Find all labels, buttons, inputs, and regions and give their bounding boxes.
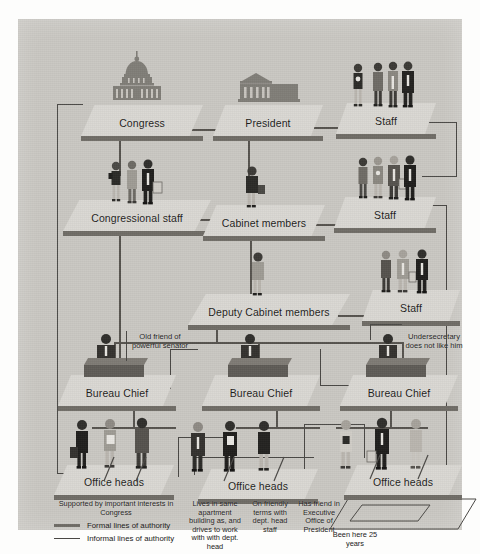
diagram-canvas: Congress <box>0 0 480 554</box>
annotation-old-friend: Old friend of powerful senator <box>131 333 189 351</box>
legend-label-formal: Formal lines of authority <box>87 521 170 530</box>
line-staff-right-mid <box>422 176 457 177</box>
platform-edge <box>340 406 458 411</box>
annotation-undersecretary: Undersecretary does not like him <box>404 333 464 351</box>
platform-edge <box>58 406 176 411</box>
people-group-icon <box>106 160 166 210</box>
line-bcc-informal-v <box>320 349 321 385</box>
node-label-staff-mid: Staff <box>334 209 436 221</box>
people-group-icon <box>348 62 420 114</box>
legend-swatch-informal <box>54 538 80 539</box>
line-congress-left-top <box>57 104 83 105</box>
informal-tick-marks <box>88 451 198 483</box>
informal-tick-marks <box>214 451 324 483</box>
platform-edge <box>81 136 203 141</box>
line-staff-right-spine <box>456 122 457 177</box>
node-label-congress: Congress <box>81 117 203 129</box>
node-label-cabinet-members: Cabinet members <box>203 217 325 229</box>
node-bureau-chief-right[interactable]: Bureau Chief <box>340 375 458 406</box>
legend-swatch-formal <box>54 524 80 527</box>
illustration-plate: Congress <box>18 19 462 530</box>
node-bureau-chief-center[interactable]: Bureau Chief <box>202 375 320 406</box>
platform-edge <box>203 236 325 241</box>
capitol-dome-icon <box>110 49 164 109</box>
platform-edge <box>334 228 436 233</box>
platform-edge <box>213 136 323 141</box>
platform-edge <box>63 231 211 236</box>
node-label-deputy-cabinet: Deputy Cabinet members <box>188 306 350 318</box>
legend-row-informal: Informal lines of authority <box>54 532 174 545</box>
platform-edge <box>188 325 350 330</box>
callout-line-right <box>370 324 371 340</box>
legend-row-formal: Formal lines of authority <box>54 519 174 532</box>
node-bureau-chief-left[interactable]: Bureau Chief <box>58 375 176 406</box>
node-label-bureau-chief-right: Bureau Chief <box>340 387 458 399</box>
woman-icon <box>240 165 266 211</box>
platform-edge <box>336 134 436 139</box>
node-label-staff-low: Staff <box>362 302 460 314</box>
node-label-president: President <box>213 117 323 129</box>
node-congress[interactable]: Congress <box>81 105 203 136</box>
people-group-icon <box>376 249 438 299</box>
legend: Formal lines of authority Informal lines… <box>54 519 174 545</box>
node-president[interactable]: President <box>213 105 323 136</box>
white-house-icon <box>234 71 300 107</box>
node-label-congressional-staff: Congressional staff <box>63 212 211 224</box>
node-label-bureau-chief-left: Bureau Chief <box>58 387 176 399</box>
platform-edge <box>344 495 462 500</box>
line-congress-left-spine <box>57 104 58 474</box>
caption-been-here: Been here 25 years <box>324 531 386 548</box>
woman-icon <box>246 251 272 299</box>
informal-tick-marks <box>356 449 466 481</box>
legend-label-informal: Informal lines of authority <box>87 534 174 543</box>
people-group-icon <box>354 155 424 207</box>
node-label-staff-top: Staff <box>336 115 436 127</box>
caption-lives-in-same: Lives in same apartment building as, and… <box>186 500 244 552</box>
platform-edge <box>202 406 320 411</box>
callout-line-right-h <box>370 324 402 325</box>
callout-box-left <box>126 331 127 361</box>
desk-official-icon <box>228 331 296 379</box>
caption-on-friendly: On friendly terms with dept. head staff <box>246 500 294 534</box>
node-label-bureau-chief-center: Bureau Chief <box>202 387 320 399</box>
caption-supported-by: Supported by important interests in Cong… <box>42 500 190 517</box>
